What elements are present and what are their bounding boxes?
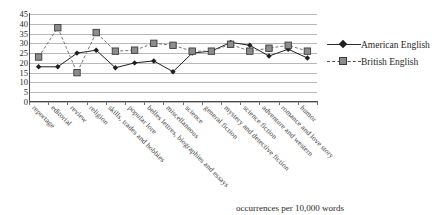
- y-axis-tick-label: 10: [2, 78, 28, 86]
- chart-caption: occurrences per 10,000 words: [236, 203, 344, 213]
- legend-symbol-square-icon: [327, 55, 361, 69]
- x-axis-tick: [144, 101, 145, 105]
- data-series-layer: [29, 14, 317, 102]
- chart-figure: 454035302520151050 reportageeditorialrev…: [0, 0, 442, 215]
- data-point-marker-square: [304, 48, 310, 54]
- x-axis-tick: [125, 101, 126, 105]
- data-point-marker-square: [189, 48, 195, 54]
- y-axis-tick-label: 35: [2, 30, 28, 38]
- data-point-marker-square: [74, 69, 80, 75]
- x-axis-tick: [87, 101, 88, 105]
- y-axis: 454035302520151050: [0, 14, 28, 102]
- data-point-marker-diamond: [247, 43, 252, 48]
- data-point-marker-diamond: [36, 64, 41, 69]
- x-axis-tick: [202, 101, 203, 105]
- x-axis-tick: [163, 101, 164, 105]
- x-axis-tick: [221, 101, 222, 105]
- y-axis-tick-label: 40: [2, 20, 28, 28]
- data-point-marker-square: [55, 24, 61, 30]
- x-axis-tick: [240, 101, 241, 105]
- x-axis-tick: [67, 101, 68, 105]
- data-point-marker-diamond: [266, 53, 271, 58]
- x-axis-tick: [298, 101, 299, 105]
- data-point-marker-square: [285, 42, 291, 48]
- gridline: [29, 102, 317, 103]
- x-axis-tick: [317, 101, 318, 105]
- data-point-marker-diamond: [305, 55, 310, 60]
- x-axis-tick: [29, 101, 30, 105]
- x-axis-tick: [48, 101, 49, 105]
- y-axis-tick-label: 25: [2, 49, 28, 57]
- data-point-marker-square: [227, 41, 233, 47]
- legend-item-british-english: British English: [327, 53, 439, 70]
- data-point-marker-diamond: [151, 58, 156, 63]
- y-axis-tick-label: 15: [2, 69, 28, 77]
- x-axis-labels: reportageeditorialreviewreligionskills, …: [0, 104, 442, 196]
- data-point-marker-square: [131, 47, 137, 53]
- data-point-marker-square: [93, 29, 99, 35]
- legend-label-american-english: American English: [361, 40, 430, 50]
- x-axis-tick: [106, 101, 107, 105]
- x-axis-tick: [183, 101, 184, 105]
- y-axis-tick-label: 5: [2, 88, 28, 96]
- data-point-marker-square: [247, 48, 253, 54]
- data-point-marker-square: [170, 42, 176, 48]
- y-axis-tick-label: 45: [2, 10, 28, 18]
- data-point-marker-square: [151, 40, 157, 46]
- y-axis-tick-label: 20: [2, 59, 28, 67]
- data-point-marker-square: [35, 54, 41, 60]
- x-axis-tick: [279, 101, 280, 105]
- data-point-marker-square: [112, 48, 118, 54]
- legend-symbol-diamond-icon: [327, 38, 361, 52]
- y-axis-tick-label: 30: [2, 39, 28, 47]
- chart-legend: American English British English: [327, 36, 439, 70]
- data-point-marker-diamond: [132, 60, 137, 65]
- legend-label-british-english: British English: [361, 57, 418, 67]
- x-axis-label: religion: [88, 104, 110, 126]
- x-axis-tick: [259, 101, 260, 105]
- data-point-marker-square: [266, 45, 272, 51]
- data-point-marker-square: [208, 48, 214, 54]
- legend-item-american-english: American English: [327, 36, 439, 53]
